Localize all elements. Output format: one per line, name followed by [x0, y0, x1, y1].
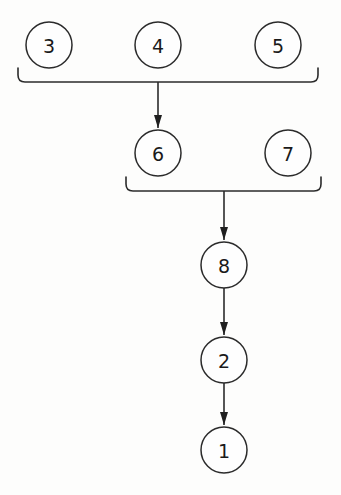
graph-svg: 34567821 — [0, 0, 341, 495]
arrowhead-n2-to-n1 — [220, 412, 228, 425]
node-label-7: 7 — [282, 143, 294, 165]
bracket-middle-path — [126, 177, 321, 191]
bracket-group-top — [18, 68, 318, 128]
bracket-group-middle — [126, 177, 321, 240]
node-3[interactable]: 3 — [26, 22, 72, 68]
bracket-top-arrowhead — [154, 115, 162, 128]
node-label-6: 6 — [152, 143, 164, 165]
node-7[interactable]: 7 — [265, 130, 311, 176]
node-1[interactable]: 1 — [201, 427, 247, 473]
node-label-2: 2 — [218, 350, 230, 372]
node-group: 34567821 — [26, 22, 311, 473]
node-4[interactable]: 4 — [135, 22, 181, 68]
arrowhead-n8-to-n2 — [220, 322, 228, 335]
node-label-5: 5 — [272, 35, 284, 57]
node-5[interactable]: 5 — [255, 22, 301, 68]
diagram-canvas: 34567821 — [0, 0, 341, 495]
node-6[interactable]: 6 — [135, 130, 181, 176]
node-label-4: 4 — [152, 35, 164, 57]
node-8[interactable]: 8 — [201, 242, 247, 288]
bracket-middle-arrowhead — [220, 227, 228, 240]
node-2[interactable]: 2 — [201, 337, 247, 383]
node-label-8: 8 — [218, 255, 230, 277]
bracket-top-path — [18, 68, 318, 82]
node-label-3: 3 — [43, 35, 55, 57]
node-label-1: 1 — [218, 440, 230, 462]
